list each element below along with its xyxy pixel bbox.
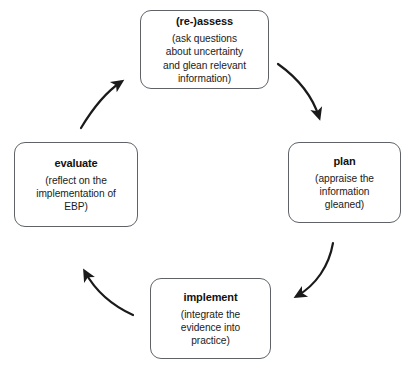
node-plan: plan (appraise the information gleaned): [288, 142, 401, 223]
node-implement: implement (integrate the evidence into p…: [150, 278, 271, 359]
node-evaluate-body: (reflect on the implementation of EBP): [36, 174, 116, 214]
node-evaluate: evaluate (reflect on the implementation …: [14, 142, 138, 227]
node-plan-body: (appraise the information gleaned): [315, 172, 374, 212]
node-assess: (re-)assess (ask questions about uncerta…: [140, 10, 269, 89]
node-implement-body: (integrate the evidence into practice): [181, 308, 240, 348]
node-evaluate-title: evaluate: [54, 156, 97, 170]
node-implement-title: implement: [183, 290, 237, 304]
node-plan-title: plan: [333, 154, 355, 168]
arrow-assess-to-plan: [278, 64, 319, 117]
node-assess-title: (re-)assess: [176, 14, 233, 28]
arrow-plan-to-implement: [297, 243, 333, 296]
node-assess-body: (ask questions about uncertainty and gle…: [163, 32, 246, 85]
arrow-evaluate-to-assess: [81, 82, 121, 128]
ebp-cycle-diagram: (re-)assess (ask questions about uncerta…: [0, 0, 408, 370]
arrow-implement-to-evaluate: [85, 272, 133, 315]
